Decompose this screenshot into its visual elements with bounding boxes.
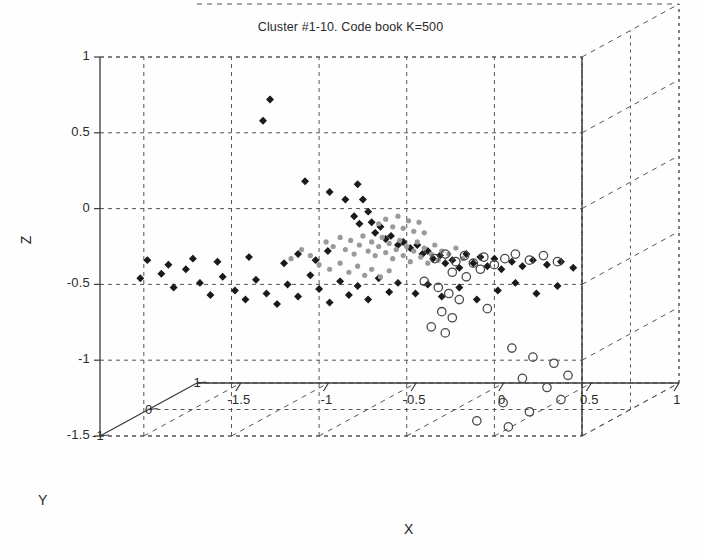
data-point — [355, 264, 360, 269]
data-point — [411, 229, 416, 234]
data-point — [307, 272, 313, 278]
data-point — [376, 221, 381, 226]
data-point — [267, 96, 273, 102]
series-dark-diamond-cluster — [137, 96, 576, 307]
data-point — [316, 262, 321, 267]
data-point — [326, 189, 332, 195]
z-tick-label: 1 — [83, 48, 90, 63]
series-light-gray-core — [288, 214, 465, 280]
data-point — [533, 290, 539, 296]
tick-marks — [94, 57, 679, 436]
data-point — [158, 271, 164, 277]
data-point — [365, 296, 371, 302]
data-point — [473, 417, 481, 425]
data-point — [376, 244, 381, 249]
data-point — [232, 287, 238, 293]
x-tick-label: 0 — [498, 392, 505, 407]
data-point — [144, 257, 150, 263]
floor-gridlines — [100, 383, 679, 436]
data-point — [570, 265, 576, 271]
data-point — [366, 248, 371, 253]
data-point — [543, 383, 551, 391]
x-tick-label: -1.5 — [227, 392, 250, 407]
data-point — [295, 293, 301, 299]
z-tick-label: 0.5 — [71, 124, 90, 139]
data-point — [455, 295, 463, 303]
data-point — [302, 178, 308, 184]
data-point — [165, 261, 171, 267]
data-point — [401, 253, 406, 258]
y-tick-label: 1 — [194, 375, 201, 390]
z-tick-label: 0 — [83, 200, 90, 215]
data-point — [372, 230, 378, 236]
y-tick-label: 0 — [145, 402, 152, 417]
data-point — [246, 254, 252, 260]
data-point — [390, 256, 395, 261]
z-tick-label: -1.5 — [67, 427, 90, 442]
data-point — [316, 286, 322, 292]
data-point — [356, 221, 362, 227]
data-point — [351, 213, 357, 219]
data-point — [242, 296, 248, 302]
data-point — [346, 270, 351, 275]
data-point — [519, 263, 525, 269]
data-point — [422, 245, 427, 250]
figure-root: Cluster #1-10. Code book K=500 Z Y X 10.… — [0, 0, 701, 560]
data-point — [312, 257, 318, 263]
data-point — [288, 256, 293, 261]
data-point — [557, 395, 565, 403]
data-point — [418, 255, 423, 260]
data-point — [190, 255, 196, 261]
data-point — [352, 251, 357, 256]
data-point — [348, 238, 353, 243]
data-point — [504, 423, 512, 431]
data-point — [512, 280, 518, 286]
x-tick-label: 1 — [673, 392, 680, 407]
data-point — [394, 247, 399, 252]
data-point — [338, 235, 343, 240]
data-point — [183, 266, 189, 272]
data-point — [411, 248, 416, 253]
z-axis-title: Z — [18, 236, 34, 245]
data-point — [495, 287, 501, 293]
data-point — [470, 260, 476, 266]
data-point — [207, 292, 213, 298]
data-point — [422, 230, 427, 235]
data-point — [362, 273, 367, 278]
data-point — [395, 214, 400, 219]
series-open-circle-cluster — [420, 250, 572, 431]
data-point — [369, 239, 374, 244]
data-point — [263, 290, 269, 296]
data-point — [448, 314, 456, 322]
data-point — [343, 247, 348, 252]
data-point — [281, 260, 287, 266]
data-point — [476, 265, 484, 273]
data-point — [404, 244, 409, 249]
data-point — [474, 296, 480, 302]
data-point — [325, 248, 331, 254]
x-tick-label: -0.5 — [402, 392, 425, 407]
data-point — [518, 374, 526, 382]
data-point — [442, 260, 448, 266]
data-point — [550, 359, 558, 367]
data-point — [408, 259, 413, 264]
data-point — [326, 299, 332, 305]
data-point — [483, 304, 491, 312]
data-point — [342, 196, 348, 202]
data-point — [284, 281, 290, 287]
data-point — [387, 241, 392, 246]
data-points — [137, 96, 576, 431]
data-point — [214, 258, 220, 264]
data-point — [448, 268, 456, 276]
data-point — [395, 280, 401, 286]
data-point — [453, 245, 458, 250]
data-point — [354, 181, 360, 187]
y-tick-label: -1 — [92, 428, 104, 443]
data-point — [441, 329, 449, 337]
data-point — [387, 268, 392, 273]
data-point — [539, 251, 547, 259]
data-point — [327, 267, 332, 272]
y-axis-title: Y — [38, 492, 47, 508]
data-point — [425, 261, 430, 266]
data-point — [337, 278, 343, 284]
